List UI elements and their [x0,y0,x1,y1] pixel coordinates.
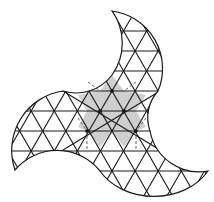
lattice-node [98,109,102,113]
lattice-node [110,89,114,93]
triskelion-lattice-diagram [0,0,214,202]
lattice-node [122,109,126,113]
lattice-node [85,129,89,133]
lattice-node [134,129,138,133]
